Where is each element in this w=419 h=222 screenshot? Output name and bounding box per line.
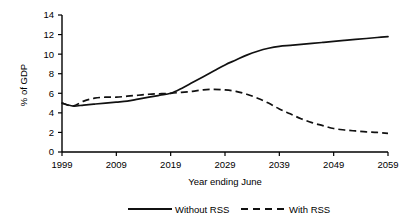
x-tick-label: 1999 bbox=[51, 159, 72, 170]
y-tick-label: 2 bbox=[49, 127, 54, 138]
series-line-without-rss bbox=[62, 37, 388, 107]
x-tick-label: 2039 bbox=[269, 159, 290, 170]
chart-container: 02468101214 1999200920192029203920492059… bbox=[0, 0, 419, 222]
y-tick-label: 4 bbox=[49, 107, 54, 118]
x-tick-label: 2029 bbox=[214, 159, 235, 170]
x-axis-title: Year ending June bbox=[188, 176, 262, 187]
y-tick-label: 6 bbox=[49, 88, 54, 99]
y-axis-tick-labels: 02468101214 bbox=[43, 9, 54, 157]
line-chart: 02468101214 1999200920192029203920492059… bbox=[0, 0, 419, 222]
series-line-with-rss bbox=[62, 89, 388, 133]
x-axis-tick-labels: 1999200920192029203920492059 bbox=[51, 159, 398, 170]
legend-label-without-rss: Without RSS bbox=[175, 204, 229, 215]
x-tick-label: 2059 bbox=[377, 159, 398, 170]
legend-label-with-rss: With RSS bbox=[289, 204, 330, 215]
y-axis-title: % of GDP bbox=[18, 64, 29, 106]
x-tick-label: 2049 bbox=[323, 159, 344, 170]
y-tick-label: 14 bbox=[43, 9, 54, 20]
y-tick-label: 0 bbox=[49, 146, 54, 157]
y-tick-label: 8 bbox=[49, 68, 54, 79]
axis-tick-marks bbox=[58, 15, 388, 156]
y-tick-label: 10 bbox=[43, 49, 54, 60]
chart-legend: Without RSS With RSS bbox=[128, 204, 330, 215]
x-tick-label: 2009 bbox=[106, 159, 127, 170]
x-tick-label: 2019 bbox=[160, 159, 181, 170]
y-tick-label: 12 bbox=[43, 29, 54, 40]
